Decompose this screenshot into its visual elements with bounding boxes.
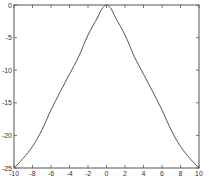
x-tick-label: 2 xyxy=(123,170,127,177)
x-tick-label: 6 xyxy=(160,170,164,177)
x-tick-label: -4 xyxy=(66,170,72,177)
y-tick-label: -25 xyxy=(2,165,12,172)
y-tick-label: -5 xyxy=(6,34,12,41)
y-tick-label: -10 xyxy=(2,67,12,74)
y-tick-label: -20 xyxy=(2,132,12,139)
x-tick-label: -8 xyxy=(29,170,35,177)
y-tick-label: -15 xyxy=(2,99,12,106)
y-tick-label: 0 xyxy=(8,2,12,9)
x-tick-label: 8 xyxy=(179,170,183,177)
x-tick-label: -6 xyxy=(48,170,54,177)
x-tick-labels: -10-8-6-4-20246810 xyxy=(9,170,203,177)
x-tick-label: 0 xyxy=(105,170,109,177)
line-chart: -10-8-6-4-20246810 0-5-10-15-20-25 xyxy=(0,0,209,186)
x-tick-label: -2 xyxy=(85,170,91,177)
x-tick-label: 4 xyxy=(142,170,146,177)
plot-area xyxy=(14,5,199,168)
x-tick-label: 10 xyxy=(195,170,203,177)
y-tick-labels: 0-5-10-15-20-25 xyxy=(2,2,12,172)
